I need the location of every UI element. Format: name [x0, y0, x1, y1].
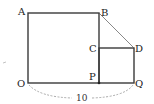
label-d: D [135, 43, 143, 54]
point-p-dot [98, 82, 101, 85]
segment-bd [99, 13, 134, 48]
dimension-arc [29, 85, 72, 98]
label-q: Q [135, 78, 143, 89]
label-p: P [89, 71, 96, 82]
dimension-label: 10 [76, 93, 88, 103]
label-c: C [89, 43, 97, 54]
square-pcdq [99, 48, 134, 83]
geometry-diagram: A B C D O P Q 10 [0, 0, 154, 104]
label-b: B [101, 7, 108, 18]
label-o: O [17, 78, 25, 89]
edge-mark [3, 62, 6, 63]
label-a: A [17, 6, 26, 17]
dimension-arc-right [92, 85, 133, 98]
